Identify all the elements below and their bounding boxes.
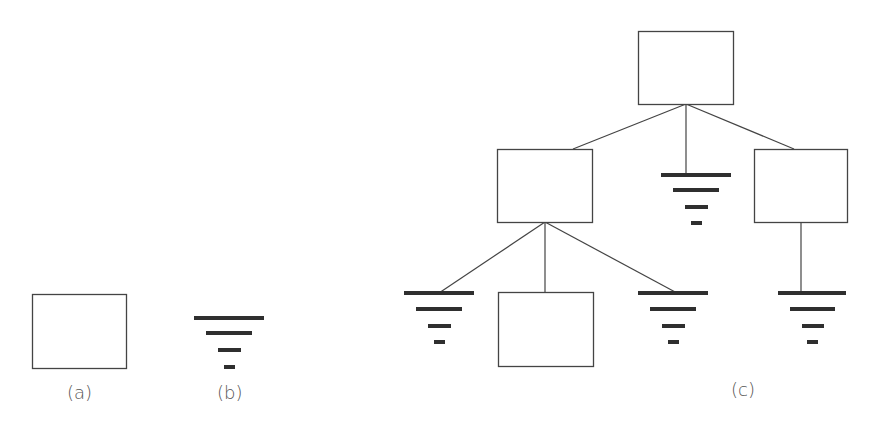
tree-edges	[439, 104, 801, 293]
edge-left-ground-ll	[439, 222, 545, 293]
tree-ground-mid-icon	[661, 173, 731, 225]
tree-node-leaf-box	[499, 293, 594, 367]
panel-a-box	[33, 295, 127, 369]
tree-ground-lr-icon	[638, 291, 708, 344]
panel-c-tree	[404, 32, 848, 367]
label-c: (c)	[731, 379, 755, 400]
edge-root-right	[686, 104, 794, 149]
panel-b-ground-icon	[194, 316, 264, 369]
diagram-canvas	[0, 0, 870, 427]
label-b: (b)	[217, 382, 242, 403]
tree-node-root-box	[639, 32, 734, 105]
tree-node-left-box	[498, 150, 593, 223]
edge-root-left	[573, 104, 686, 149]
tree-ground-ll-icon	[404, 291, 474, 344]
tree-node-right-box	[755, 150, 848, 223]
edge-left-ground-lr	[545, 222, 677, 293]
label-a: (a)	[67, 382, 92, 403]
tree-ground-rr-icon	[778, 291, 846, 344]
